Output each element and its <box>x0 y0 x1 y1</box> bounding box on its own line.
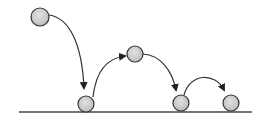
ball-4-icon <box>173 95 189 111</box>
ball-5-icon <box>223 95 239 111</box>
arc-3-arrow <box>143 54 176 90</box>
balls <box>31 8 239 112</box>
ball-3-icon <box>127 46 143 62</box>
ball-1-icon <box>31 8 49 26</box>
bouncing-ball-diagram <box>0 0 257 122</box>
ball-2-icon <box>78 96 94 112</box>
arc-2-arrow <box>93 56 125 97</box>
arc-1-arrow <box>49 15 84 88</box>
arc-4-arrow <box>184 77 224 95</box>
